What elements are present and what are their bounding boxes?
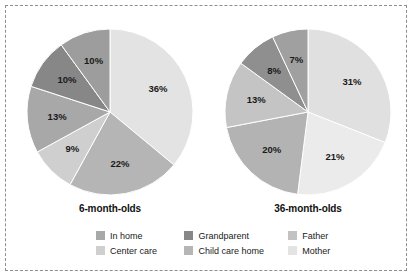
- legend-label: In home: [110, 231, 143, 241]
- legend-swatch-icon: [184, 231, 193, 240]
- pie-title-36-month-olds: 36-month-olds: [208, 203, 408, 214]
- legend-item-father[interactable]: Father: [288, 231, 346, 241]
- legend-label: Center care: [110, 246, 157, 256]
- legend-label: Grandparent: [198, 231, 249, 241]
- pie-36mo-label-father: 7%: [290, 54, 304, 65]
- legend-swatch-icon: [96, 231, 105, 240]
- legend-item-in-home[interactable]: In home: [96, 231, 184, 241]
- pie-6mo-label-center-care: 9%: [66, 143, 80, 154]
- legend-label: Father: [302, 231, 328, 241]
- legend-row: Center careChild care homeMother: [96, 243, 346, 258]
- legend-swatch-icon: [288, 231, 297, 240]
- pie-6mo-label-in-home: 13%: [48, 111, 68, 122]
- pie-36mo-label-in-home: 13%: [247, 94, 267, 105]
- pie-chart-6-month-olds: 36%22%9%13%10%10%: [18, 22, 202, 202]
- legend: In homeGrandparentFatherCenter careChild…: [96, 228, 346, 258]
- legend-item-grandparent[interactable]: Grandparent: [184, 231, 288, 241]
- pie-6mo-label-mother: 36%: [149, 83, 169, 94]
- legend-label: Child care home: [198, 246, 264, 256]
- pie-6mo-label-grandparent: 10%: [58, 74, 78, 85]
- pie-6mo-label-father: 10%: [84, 55, 104, 66]
- pie-36mo-label-grandparent: 8%: [267, 65, 281, 76]
- pie-36mo-label-center-care: 21%: [326, 151, 346, 162]
- legend-swatch-icon: [96, 246, 105, 255]
- legend-swatch-icon: [288, 246, 297, 255]
- pie-36mo-label-mother: 31%: [342, 76, 362, 87]
- pie-chart-36-month-olds: 31%21%20%13%8%7%: [216, 22, 400, 202]
- legend-item-mother[interactable]: Mother: [288, 246, 346, 256]
- legend-item-center-care[interactable]: Center care: [96, 246, 184, 256]
- legend-item-child-care-home[interactable]: Child care home: [184, 246, 288, 256]
- pie-36mo-label-child-care-home: 20%: [262, 144, 282, 155]
- legend-label: Mother: [302, 246, 330, 256]
- legend-swatch-icon: [184, 246, 193, 255]
- legend-row: In homeGrandparentFather: [96, 228, 346, 243]
- pie-6mo-label-child-care-home: 22%: [110, 158, 130, 169]
- pie-title-6-month-olds: 6-month-olds: [10, 203, 210, 214]
- pie-chart-figure: 36%22%9%13%10%10% 6-month-olds 31%21%20%…: [0, 0, 412, 276]
